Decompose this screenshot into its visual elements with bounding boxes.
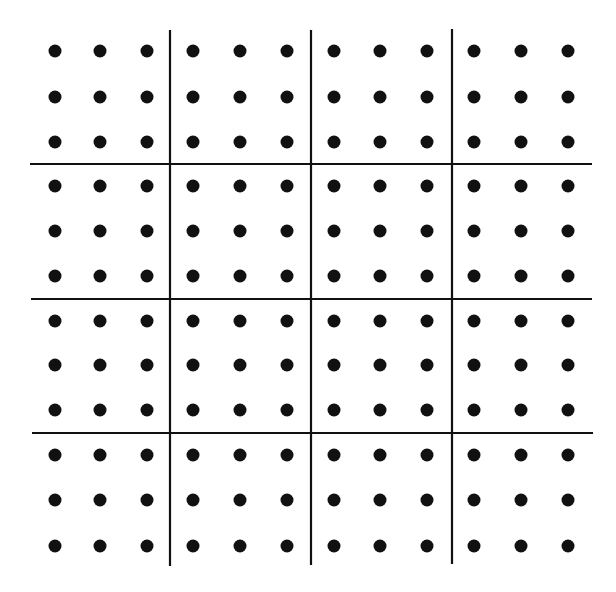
dot (562, 359, 575, 372)
dot (374, 91, 387, 104)
dot (94, 225, 107, 238)
dot (281, 180, 294, 193)
dot (234, 494, 247, 507)
dot (187, 315, 200, 328)
dot (374, 225, 387, 238)
dot (281, 540, 294, 553)
dot (515, 270, 528, 283)
dot (421, 136, 434, 149)
dot (374, 136, 387, 149)
dot (234, 449, 247, 462)
dot (49, 540, 62, 553)
dot (374, 404, 387, 417)
dot (234, 225, 247, 238)
dot (94, 359, 107, 372)
dot (421, 494, 434, 507)
dot (328, 180, 341, 193)
dot (49, 494, 62, 507)
dot (187, 359, 200, 372)
dot (141, 404, 154, 417)
dot (374, 540, 387, 553)
dot (49, 225, 62, 238)
dot (515, 359, 528, 372)
dot (94, 91, 107, 104)
dot (234, 315, 247, 328)
dot (421, 91, 434, 104)
dot (562, 404, 575, 417)
dot (562, 315, 575, 328)
dot (374, 359, 387, 372)
dot (374, 449, 387, 462)
dot (49, 449, 62, 462)
dot (515, 540, 528, 553)
dot (468, 494, 481, 507)
dot (141, 540, 154, 553)
dot (374, 45, 387, 58)
dot (562, 136, 575, 149)
dot (234, 359, 247, 372)
dot (187, 270, 200, 283)
dot (328, 540, 341, 553)
dot (374, 270, 387, 283)
dot (281, 45, 294, 58)
dot (374, 180, 387, 193)
dot (328, 136, 341, 149)
dot (515, 404, 528, 417)
dot (234, 404, 247, 417)
dot (281, 404, 294, 417)
dot (562, 449, 575, 462)
dot (234, 45, 247, 58)
dot (49, 91, 62, 104)
dot (328, 315, 341, 328)
dot (141, 136, 154, 149)
dot (94, 270, 107, 283)
dot (468, 136, 481, 149)
dot (187, 91, 200, 104)
dot (421, 45, 434, 58)
dot (468, 359, 481, 372)
dot (421, 359, 434, 372)
dot (49, 45, 62, 58)
dot (515, 449, 528, 462)
dot (515, 225, 528, 238)
dot (234, 180, 247, 193)
dot (328, 225, 341, 238)
dot (468, 45, 481, 58)
dot (234, 540, 247, 553)
dot (141, 180, 154, 193)
dot (141, 91, 154, 104)
dot (281, 359, 294, 372)
dot (421, 225, 434, 238)
dot (421, 180, 434, 193)
dot (141, 359, 154, 372)
dot (94, 494, 107, 507)
dot (234, 270, 247, 283)
dot (187, 225, 200, 238)
dot (141, 315, 154, 328)
dot (328, 494, 341, 507)
dot (562, 45, 575, 58)
dot (562, 494, 575, 507)
dot (94, 315, 107, 328)
dot (281, 449, 294, 462)
dot (94, 136, 107, 149)
dot (281, 136, 294, 149)
dot (187, 404, 200, 417)
dot (281, 225, 294, 238)
dot (468, 404, 481, 417)
dot (515, 315, 528, 328)
dot (281, 494, 294, 507)
dot (328, 449, 341, 462)
dot (562, 180, 575, 193)
dot (515, 180, 528, 193)
dot (562, 270, 575, 283)
dot (468, 315, 481, 328)
dot (94, 540, 107, 553)
dot (187, 180, 200, 193)
dot (94, 180, 107, 193)
dot (94, 45, 107, 58)
dot (468, 270, 481, 283)
dot (421, 404, 434, 417)
dot (141, 270, 154, 283)
dot (562, 540, 575, 553)
